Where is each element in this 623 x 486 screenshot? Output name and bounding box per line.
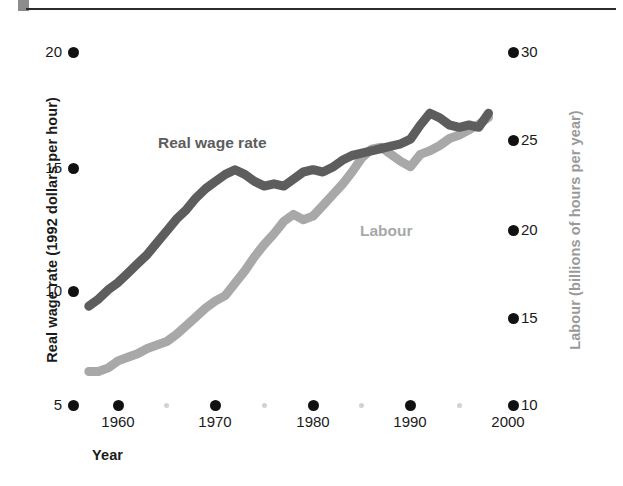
series-line-labour — [89, 117, 489, 371]
plot-area — [0, 0, 623, 486]
series-annotation-labour: Labour — [360, 222, 413, 240]
series-annotation-real-wage: Real wage rate — [158, 134, 267, 152]
series-line-real-wage — [89, 113, 489, 306]
figure-canvas: Real wage rate (1992 dollars per hour) L… — [0, 0, 623, 486]
